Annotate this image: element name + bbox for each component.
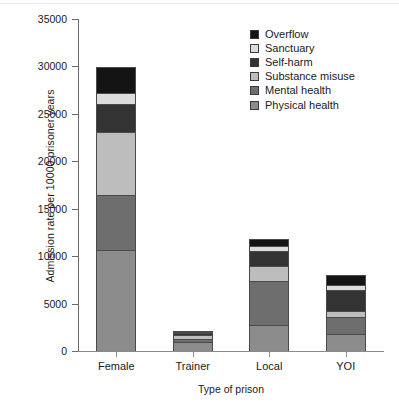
stacked-bar-chart: Admission rate per 10000 prisoner years … [0,0,399,407]
y-tick-label: 35000 [7,14,67,24]
bar-segment-overflow [96,67,136,92]
bar-segment-sanctuary [249,246,289,251]
y-tick-label: 5000 [7,299,67,309]
legend-item: Self-harm [250,55,396,69]
legend-item: Mental health [250,84,396,98]
legend-item: Sanctuary [250,41,396,55]
legend-item-label: Self-harm [265,57,313,68]
bar-segment-sanctuary [326,285,366,291]
x-tick-mark [269,351,270,357]
bar-segment-physical-health [173,342,213,351]
bar-female [96,67,136,351]
bar-segment-physical-health [96,250,136,351]
bar-segment-overflow [249,239,289,246]
x-tick-mark [193,351,194,357]
bar-segment-mental-health [173,339,213,343]
bar-segment-substance-misuse [96,132,136,195]
bar-segment-mental-health [249,281,289,325]
bar-segment-physical-health [326,334,366,351]
bar-trainer [173,331,213,351]
legend-item-label: Mental health [265,85,331,96]
legend-swatch-icon [250,72,259,81]
y-tick-label: 10000 [7,251,67,261]
bar-segment-self-harm [249,251,289,266]
bar-segment-self-harm [326,290,366,311]
y-tick-label: 20000 [7,156,67,166]
bar-segment-mental-health [326,317,366,334]
bar-segment-substance-misuse [326,311,366,317]
bar-segment-sanctuary [96,93,136,105]
bar-segment-overflow [326,275,366,285]
bar-segment-mental-health [96,195,136,250]
bar-segment-self-harm [96,104,136,132]
legend-swatch-icon [250,44,259,53]
bar-yoi [326,275,366,351]
bar-segment-overflow [173,331,213,332]
x-tick-label-yoi: YOI [301,360,391,372]
legend-item-label: Sanctuary [265,43,315,54]
bar-segment-physical-health [249,325,289,351]
legend-item-label: Physical health [265,100,339,111]
x-tick-mark [346,351,347,357]
legend-swatch-icon [250,86,259,95]
legend-item: Substance misuse [250,70,396,84]
x-tick-mark [116,351,117,357]
bar-segment-substance-misuse [173,335,213,339]
y-tick-label: 0 [7,346,67,356]
legend-item-label: Overflow [265,29,308,40]
legend-item: Physical health [250,98,396,112]
legend-swatch-icon [250,101,259,110]
chart-legend: OverflowSanctuarySelf-harmSubstance misu… [250,27,396,112]
bar-segment-sanctuary [173,332,213,333]
legend-item: Overflow [250,27,396,41]
y-tick-label: 15000 [7,204,67,214]
y-tick-label: 25000 [7,109,67,119]
x-axis-line [78,351,384,352]
bar-segment-substance-misuse [249,266,289,281]
x-axis-title: Type of prison [78,383,384,395]
bar-local [249,239,289,351]
y-tick-label: 30000 [7,61,67,71]
scan-artifact-line [0,3,399,4]
bar-segment-self-harm [173,333,213,335]
legend-swatch-icon [250,30,259,39]
legend-swatch-icon [250,58,259,67]
legend-item-label: Substance misuse [265,71,355,82]
